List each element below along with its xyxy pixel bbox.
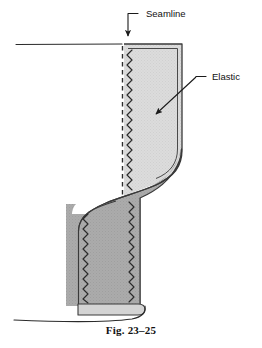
figure-illustration: Seamline Elastic Fig. 23–25 — [0, 0, 262, 348]
hem-band — [78, 304, 145, 315]
elastic-label: Elastic — [212, 71, 240, 82]
seamline-label: Seamline — [146, 8, 186, 19]
sewing-diagram-svg: Seamline Elastic — [0, 0, 262, 348]
garment-edge-top — [16, 44, 122, 45]
label-seamline: Seamline — [128, 8, 186, 36]
figure-caption: Fig. 23–25 — [0, 324, 262, 336]
